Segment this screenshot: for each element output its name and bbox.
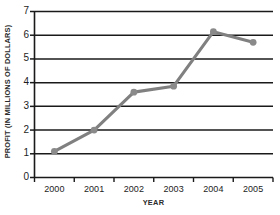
data-point bbox=[51, 148, 58, 155]
y-tick-label: 1 bbox=[13, 148, 29, 158]
data-point bbox=[130, 89, 137, 96]
y-tick-label: 0 bbox=[13, 172, 29, 182]
line-chart: PROFIT (IN MILLIONS OF DOLLARS) YEAR 012… bbox=[0, 0, 280, 215]
y-tick-label: 6 bbox=[13, 30, 29, 40]
x-tick-label: 2002 bbox=[114, 184, 154, 194]
x-tick-label: 2000 bbox=[34, 184, 74, 194]
data-line bbox=[54, 32, 253, 152]
plot-area bbox=[0, 0, 280, 215]
data-point bbox=[170, 83, 177, 90]
x-tick-label: 2004 bbox=[193, 184, 233, 194]
data-point bbox=[91, 127, 98, 134]
gridlines bbox=[35, 12, 274, 178]
y-tick-label: 7 bbox=[13, 6, 29, 16]
y-tick-label: 3 bbox=[13, 101, 29, 111]
y-tick-label: 4 bbox=[13, 77, 29, 87]
data-point bbox=[250, 39, 257, 46]
data-point bbox=[210, 28, 217, 35]
y-tick-label: 2 bbox=[13, 125, 29, 135]
x-tick-label: 2003 bbox=[154, 184, 194, 194]
y-tick-label: 5 bbox=[13, 53, 29, 63]
x-tick-label: 2005 bbox=[233, 184, 273, 194]
x-tick-label: 2001 bbox=[74, 184, 114, 194]
